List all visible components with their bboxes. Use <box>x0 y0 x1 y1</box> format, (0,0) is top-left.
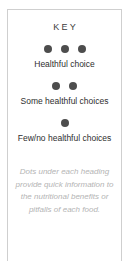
legend-item-healthful: Healthful choice <box>8 33 121 70</box>
rating-dots-one <box>8 118 121 127</box>
key-title: KEY <box>8 10 121 33</box>
dot-icon <box>61 119 69 127</box>
dot-icon <box>69 82 77 90</box>
dot-icon <box>61 45 69 53</box>
dot-icon <box>78 45 86 53</box>
key-footnote: Dots under each heading provide quick in… <box>8 144 121 216</box>
dot-icon <box>52 82 60 90</box>
dot-icon <box>44 45 52 53</box>
legend-list: Healthful choice Some healthful choices … <box>8 33 121 144</box>
legend-item-label: Some healthful choices <box>8 96 121 107</box>
legend-item-some-healthful: Some healthful choices <box>8 70 121 107</box>
key-card: KEY Healthful choice Some healthful choi… <box>7 9 122 261</box>
legend-item-label: Few/no healthful choices <box>8 133 121 144</box>
rating-dots-three <box>8 44 121 53</box>
rating-dots-two <box>8 81 121 90</box>
legend-item-few-no-healthful: Few/no healthful choices <box>8 107 121 144</box>
legend-item-label: Healthful choice <box>8 59 121 70</box>
